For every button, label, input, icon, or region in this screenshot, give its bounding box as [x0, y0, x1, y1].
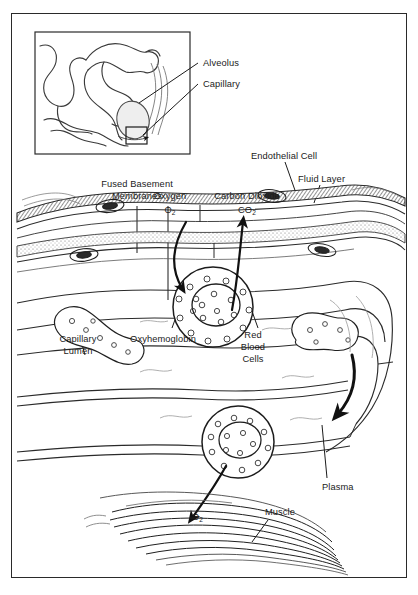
label-fluid-layer: Fluid Layer	[298, 174, 345, 185]
label-carbon-dioxide-formula: CO2	[238, 205, 256, 216]
blood-flow-arrow	[338, 355, 354, 414]
label-alveolus: Alveolus	[203, 58, 239, 69]
figure-page: Alveolus Capillary Endothelial Cell Flui…	[0, 0, 418, 595]
label-capillary-lumen-line1: Capillary	[59, 334, 96, 345]
label-muscle: Muscle	[265, 507, 295, 518]
label-oxygen-formula: O2	[164, 205, 175, 216]
label-red-blood-cells-line3: Cells	[242, 354, 263, 365]
label-capillary-lumen-line2: Lumen	[64, 346, 93, 357]
gas-arrows	[174, 222, 354, 518]
label-endothelial-cell: Endothelial Cell	[251, 151, 317, 162]
label-plasma: Plasma	[322, 482, 354, 493]
label-carbon-dioxide-name: Carbon Dioxide	[214, 191, 279, 202]
capillary-right-bend	[326, 281, 393, 452]
oxygen-to-muscle-arrow	[192, 466, 226, 518]
wbc-right	[292, 313, 358, 351]
label-oxyhemoglobin: Oxyhemoglobin	[130, 334, 196, 345]
label-oxygen-name: Oxygen	[154, 191, 187, 202]
label-fused-basement-membranes-line1: Fused Basement	[101, 179, 173, 190]
label-red-blood-cells-line2: Blood	[241, 342, 265, 353]
muscle-fibers	[84, 492, 348, 575]
label-capillary: Capillary	[203, 79, 240, 90]
label-red-blood-cells-line1: Red	[244, 330, 261, 341]
membrane-layers	[17, 185, 405, 272]
label-oxygen-muscle: O2	[192, 512, 203, 523]
inset-panel	[35, 32, 190, 154]
red-blood-cell-lower	[202, 406, 274, 478]
